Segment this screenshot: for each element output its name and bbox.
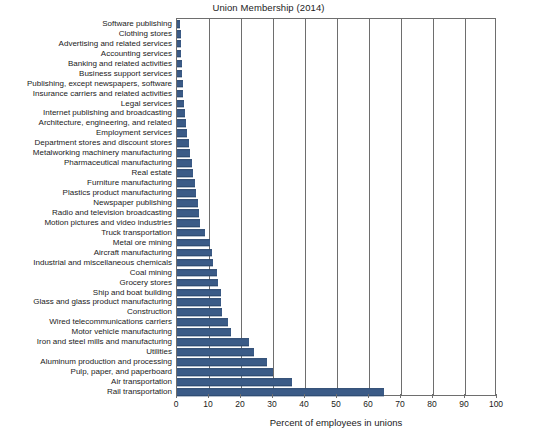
bar-row[interactable] [177,109,495,119]
bar[interactable] [177,50,181,58]
bar[interactable] [177,100,184,108]
bar-row[interactable] [177,298,495,308]
bar[interactable] [177,329,231,337]
bar-row[interactable] [177,79,495,89]
bar[interactable] [177,20,180,28]
bar[interactable] [177,30,181,38]
bar-row[interactable] [177,307,495,317]
bar-row[interactable] [177,317,495,327]
bar[interactable] [177,299,221,307]
category-label: Pharmaceutical manufacturing [64,158,172,167]
category-label: Metalworking machinery manufacturing [33,148,172,157]
bar[interactable] [177,189,196,197]
bar[interactable] [177,60,182,68]
bar[interactable] [177,120,186,128]
bar-row[interactable] [177,248,495,258]
category-label-row: Wired telecommunications carriers [0,316,174,326]
bar[interactable] [177,199,198,207]
category-label: Aircraft manufacturing [94,247,172,256]
bar-row[interactable] [177,178,495,188]
bar-row[interactable] [177,99,495,109]
bar-row[interactable] [177,138,495,148]
bar[interactable] [177,179,195,187]
bar[interactable] [177,229,205,237]
bar-row[interactable] [177,89,495,99]
bar-row[interactable] [177,337,495,347]
category-label-row: Legal services [0,98,174,108]
bar[interactable] [177,368,273,376]
bar-row[interactable] [177,29,495,39]
bar-row[interactable] [177,158,495,168]
bar-row[interactable] [177,268,495,278]
bar[interactable] [177,130,187,138]
category-label: Utilities [146,347,172,356]
category-label-row: Newspaper publishing [0,197,174,207]
bar[interactable] [177,219,200,227]
bar[interactable] [177,259,213,267]
bar[interactable] [177,70,182,78]
bar[interactable] [177,239,210,247]
plot-area [176,18,496,396]
bar[interactable] [177,140,189,148]
bar[interactable] [177,338,249,346]
bar-row[interactable] [177,49,495,59]
bar[interactable] [177,209,199,217]
category-label: Insurance carriers and related activitie… [33,88,172,97]
bar-row[interactable] [177,188,495,198]
category-label-row: Motion pictures and video industries [0,217,174,227]
bar-row[interactable] [177,148,495,158]
bar[interactable] [177,319,228,327]
category-label: Motor vehicle manufacturing [72,327,173,336]
bar[interactable] [177,269,217,277]
category-label-row: Plastics product manufacturing [0,187,174,197]
bar-row[interactable] [177,128,495,138]
bar-row[interactable] [177,198,495,208]
bar[interactable] [177,80,183,88]
bar-row[interactable] [177,377,495,387]
bar[interactable] [177,249,212,257]
x-tick-label-30: 30 [267,398,276,410]
x-tick-label-10: 10 [203,398,212,410]
bar[interactable] [177,169,193,177]
category-label-row: Construction [0,306,174,316]
bar[interactable] [177,378,292,386]
bar-row[interactable] [177,228,495,238]
bar[interactable] [177,279,218,287]
bar-row[interactable] [177,118,495,128]
category-label: Glass and glass product manufacturing [33,297,172,306]
bar-row[interactable] [177,357,495,367]
category-label-row: Furniture manufacturing [0,177,174,187]
category-label-row: Ship and boat building [0,287,174,297]
bar[interactable] [177,289,221,297]
category-label-row: Advertising and related services [0,38,174,48]
bar-row[interactable] [177,327,495,337]
x-tick-label-70: 70 [395,398,404,410]
bar-row[interactable] [177,258,495,268]
category-label-row: Motor vehicle manufacturing [0,326,174,336]
bar-row[interactable] [177,59,495,69]
bar-row[interactable] [177,208,495,218]
bar-row[interactable] [177,238,495,248]
bar[interactable] [177,149,190,157]
category-label: Industrial and miscellaneous chemicals [33,257,172,266]
bar-row[interactable] [177,288,495,298]
bar-row[interactable] [177,168,495,178]
bar[interactable] [177,348,254,356]
bar-row[interactable] [177,39,495,49]
bar[interactable] [177,358,267,366]
category-label-row: Clothing stores [0,28,174,38]
bar-row[interactable] [177,218,495,228]
bar-row[interactable] [177,69,495,79]
bar-row[interactable] [177,19,495,29]
category-label: Truck transportation [101,227,172,236]
bar-row[interactable] [177,347,495,357]
bar[interactable] [177,110,185,118]
bar[interactable] [177,40,181,48]
bar[interactable] [177,309,222,317]
category-label: Department stores and discount stores [35,138,172,147]
bar-row[interactable] [177,367,495,377]
bar[interactable] [177,90,183,98]
bar[interactable] [177,159,192,167]
category-label: Software publishing [102,18,172,27]
bar-row[interactable] [177,278,495,288]
